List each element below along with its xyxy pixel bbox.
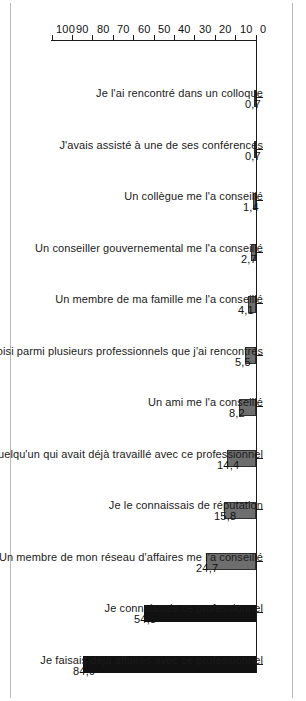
category-label: Je connaissais quelqu'un qui avait déjà … bbox=[0, 448, 263, 460]
value-axis-tick-label: 40 bbox=[178, 23, 191, 35]
bar-value-label: 1,4 bbox=[243, 202, 259, 214]
value-axis-tick-label: 80 bbox=[97, 23, 110, 35]
category-label: Un membre de mon réseau d'affaires me l'… bbox=[0, 551, 263, 563]
value-axis-tick bbox=[235, 35, 236, 41]
value-axis-tick-label: 10 bbox=[240, 23, 253, 35]
value-axis-tick bbox=[52, 35, 53, 41]
category-label: Je faisais déjà affaires avec ce profess… bbox=[40, 654, 263, 666]
bar-value-label: 15,8 bbox=[214, 511, 236, 523]
bar-value-label: 84,9 bbox=[73, 665, 95, 677]
value-axis-tick bbox=[174, 35, 175, 41]
category-label: Un ami me l'a conseillé bbox=[148, 397, 263, 409]
category-label: Je l'ai rencontré dans un colloque bbox=[96, 88, 263, 100]
bar-value-label: 24,7 bbox=[196, 562, 218, 574]
bar-value-label: 0,7 bbox=[245, 150, 261, 162]
bar-value-label: 5,5 bbox=[235, 356, 251, 368]
plot-area: 0102030405060708090100 84,954,824,715,81… bbox=[13, 5, 293, 695]
category-label: Je connaissais ce professionnel bbox=[105, 603, 263, 615]
value-axis-tick bbox=[92, 35, 93, 41]
value-axis-tick-label: 60 bbox=[138, 23, 151, 35]
value-axis-tick bbox=[194, 35, 195, 41]
category-label: J'avais assisté à une de ses conférences bbox=[59, 139, 263, 151]
value-axis-tick-label: 100 bbox=[56, 23, 75, 35]
bar-value-label: 2,7 bbox=[241, 253, 257, 265]
category-label: Je l'ai choisi parmi plusieurs professio… bbox=[0, 345, 263, 357]
value-axis-tick bbox=[113, 35, 114, 41]
value-axis-tick-label: 30 bbox=[199, 23, 212, 35]
category-label: Un collègue me l'a conseillé bbox=[124, 191, 263, 203]
bar-value-label: 0,7 bbox=[245, 99, 261, 111]
category-axis-line bbox=[256, 41, 257, 673]
bar-value-label: 8,2 bbox=[229, 408, 245, 420]
value-axis-tick bbox=[215, 35, 216, 41]
category-label: Je le connaissais de réputation bbox=[109, 500, 263, 512]
value-axis-tick bbox=[154, 35, 155, 41]
value-axis-tick-label: 90 bbox=[76, 23, 89, 35]
value-axis-tick bbox=[256, 35, 257, 41]
value-axis-tick-label: 70 bbox=[117, 23, 130, 35]
value-axis-tick bbox=[72, 35, 73, 41]
value-axis-tick-label: 50 bbox=[158, 23, 171, 35]
bar-value-label: 14,4 bbox=[217, 459, 239, 471]
chart-figure: 0102030405060708090100 84,954,824,715,81… bbox=[0, 0, 306, 701]
value-axis-tick bbox=[133, 35, 134, 41]
bar-value-label: 54,8 bbox=[134, 614, 156, 626]
bar-value-label: 4,1 bbox=[238, 305, 254, 317]
value-axis-tick-label: 0 bbox=[260, 23, 266, 35]
category-label: Un membre de ma famille me l'a conseillé bbox=[55, 294, 263, 306]
value-axis-tick-label: 20 bbox=[219, 23, 232, 35]
category-label: Un conseiller gouvernemental me l'a cons… bbox=[35, 242, 263, 254]
